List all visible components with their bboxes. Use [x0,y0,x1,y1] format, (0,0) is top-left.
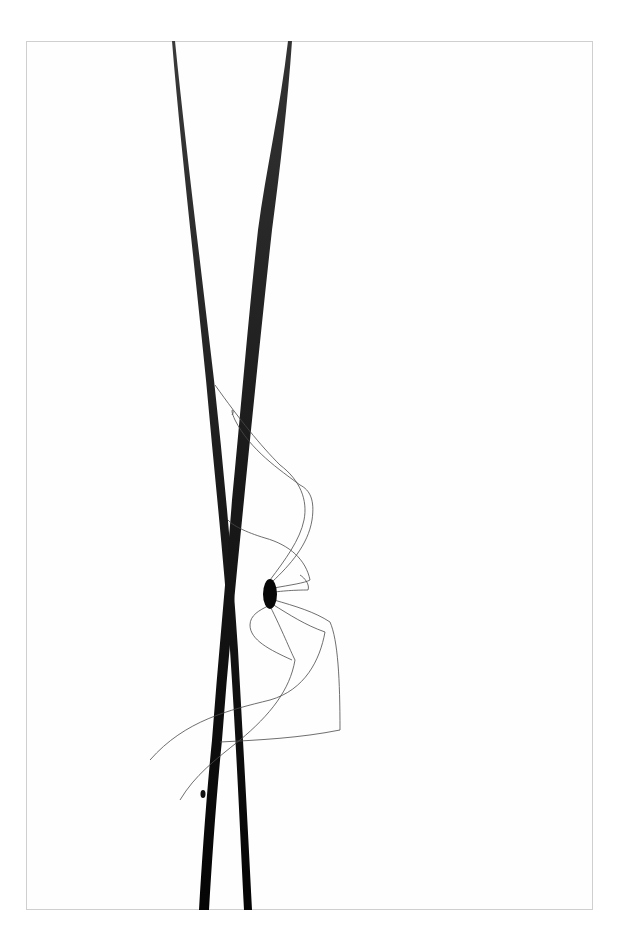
grass-blade-right [199,41,292,910]
photo-artwork [0,0,621,938]
spider-body [263,579,277,609]
small-insect [201,790,206,798]
